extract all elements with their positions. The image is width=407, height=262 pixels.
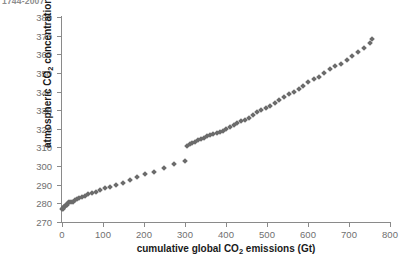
y-tick-label: 280 — [22, 199, 52, 208]
y-tick-mark — [57, 185, 62, 186]
x-tick-mark — [185, 222, 186, 227]
data-point — [349, 53, 355, 59]
y-tick-mark — [57, 110, 62, 111]
x-tick-mark — [390, 222, 391, 227]
y-tick-label: 270 — [22, 218, 52, 227]
data-point — [316, 74, 322, 80]
data-point — [322, 70, 328, 76]
y-tick-mark — [57, 36, 62, 37]
y-tick-mark — [57, 92, 62, 93]
x-tick-mark — [144, 222, 145, 227]
data-point — [113, 182, 119, 188]
y-tick-label: 290 — [22, 181, 52, 190]
x-tick-mark — [349, 222, 350, 227]
chart-figure: 1744-2007 270280290300310320330340350360… — [0, 0, 407, 262]
x-tick-label: 0 — [42, 230, 82, 239]
x-tick-label: 100 — [83, 230, 123, 239]
data-point — [327, 66, 333, 72]
data-point — [171, 161, 177, 167]
x-tick-mark — [308, 222, 309, 227]
y-tick-mark — [57, 147, 62, 148]
x-tick-mark — [62, 222, 63, 227]
data-point — [134, 174, 140, 180]
y-tick-mark — [57, 129, 62, 130]
data-point — [301, 83, 307, 89]
y-tick-mark — [57, 54, 62, 55]
data-point — [361, 45, 367, 51]
x-tick-label: 700 — [329, 230, 369, 239]
x-tick-mark — [103, 222, 104, 227]
subscript-two: 2 — [46, 67, 55, 71]
x-tick-label: 200 — [124, 230, 164, 239]
data-point — [344, 57, 350, 63]
y-tick-mark — [57, 166, 62, 167]
x-axis-title: cumulative global CO2 emissions (Gt) — [62, 243, 390, 254]
y-tick-mark — [57, 73, 62, 74]
chart-caption: 1744-2007 — [2, 0, 44, 4]
data-point — [151, 169, 157, 175]
x-tick-label: 300 — [165, 230, 205, 239]
x-tick-label: 500 — [247, 230, 287, 239]
plot-area: 270280290300310320330340350360370380 010… — [62, 17, 390, 222]
data-point — [120, 180, 126, 186]
x-tick-mark — [267, 222, 268, 227]
x-tick-label: 400 — [206, 230, 246, 239]
x-tick-label: 600 — [288, 230, 328, 239]
data-point — [127, 177, 133, 183]
data-point — [182, 158, 188, 164]
y-tick-label: 300 — [22, 162, 52, 171]
y-tick-mark — [57, 203, 62, 204]
data-point — [355, 50, 361, 56]
x-tick-mark — [226, 222, 227, 227]
y-axis-title: atmospheric CO2 concentration (ppm) — [42, 0, 53, 153]
subscript-two: 2 — [239, 247, 243, 256]
y-tick-mark — [57, 17, 62, 18]
data-point — [161, 165, 167, 171]
data-point — [142, 172, 148, 178]
x-tick-label: 800 — [370, 230, 407, 239]
data-point — [306, 79, 312, 85]
data-point — [338, 61, 344, 67]
